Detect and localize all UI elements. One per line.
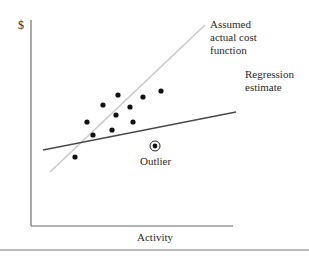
assumed-cost-line bbox=[50, 25, 205, 172]
assumed-label-2: actual cost bbox=[210, 31, 257, 44]
outlier-point bbox=[150, 141, 160, 151]
scatter-plot bbox=[0, 0, 309, 257]
x-axis-label: Activity bbox=[137, 231, 173, 244]
assumed-label-3: function bbox=[210, 44, 247, 57]
y-axis-label: $ bbox=[18, 19, 24, 32]
regression-line bbox=[43, 112, 236, 150]
data-points bbox=[72, 88, 163, 159]
regression-label-2: estimate bbox=[245, 81, 282, 94]
outlier-label: Outlier bbox=[140, 155, 171, 168]
regression-label-1: Regression bbox=[245, 68, 294, 81]
assumed-label-1: Assumed bbox=[210, 18, 251, 31]
